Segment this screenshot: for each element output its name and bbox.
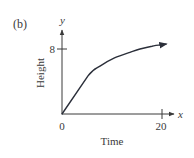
y-axis-title: Height [34, 58, 46, 88]
x-axis-variable: x [177, 108, 183, 120]
height-vs-time-chart: (b) y x 8 20 0 Time Height [0, 0, 194, 158]
y-axis-variable: y [59, 14, 65, 26]
x-axis-title: Time [101, 135, 124, 147]
panel-label: (b) [13, 17, 27, 31]
x-tick-label-0: 0 [59, 120, 65, 132]
x-tick-label-20: 20 [156, 120, 168, 132]
y-tick-label-8: 8 [50, 43, 56, 55]
height-curve [62, 44, 166, 114]
